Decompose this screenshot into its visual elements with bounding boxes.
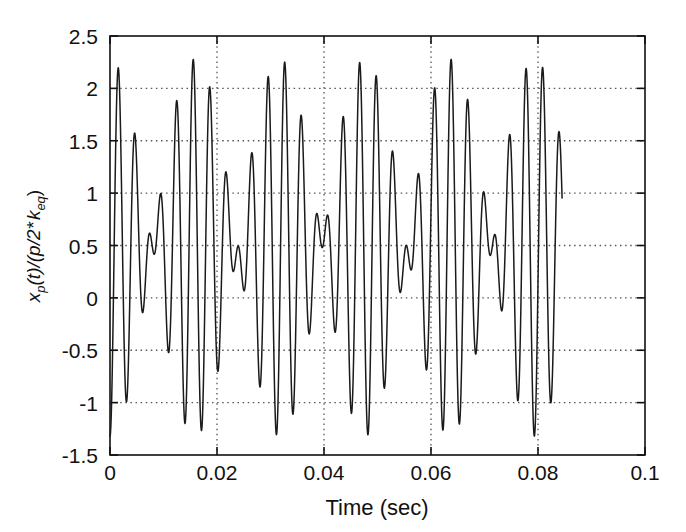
y-tick-label: -0.5 xyxy=(62,339,98,362)
y-tick-label: 0.5 xyxy=(69,235,98,258)
figure-background xyxy=(0,0,686,532)
y-tick-label: 1.5 xyxy=(69,130,98,153)
y-tick-label: 2.5 xyxy=(69,25,98,48)
x-tick-label: 0 xyxy=(104,461,116,484)
x-tick-label: 0.08 xyxy=(518,461,559,484)
y-axis-title-x-subscript: p xyxy=(33,285,48,293)
y-axis-title-k-subscript: eq xyxy=(33,195,48,210)
y-tick-label: 2 xyxy=(86,77,98,100)
y-axis-title-mid: (t)/(p/2* xyxy=(23,222,44,286)
x-tick-label: 0.06 xyxy=(411,461,452,484)
y-tick-label: -1.5 xyxy=(62,444,98,467)
y-axis-title-close: ) xyxy=(23,190,44,196)
x-tick-label: 0.1 xyxy=(630,461,659,484)
x-axis-title: Time (sec) xyxy=(325,495,428,520)
y-tick-label: 0 xyxy=(86,287,98,310)
plot-svg: 2.521.510.50-0.5-1-1.5 00.020.040.060.08… xyxy=(0,0,686,532)
y-tick-label: -1 xyxy=(79,392,98,415)
figure-container: 2.521.510.50-0.5-1-1.5 00.020.040.060.08… xyxy=(0,0,686,532)
y-tick-label: 1 xyxy=(86,182,98,205)
x-tick-label: 0.02 xyxy=(197,461,238,484)
x-tick-label: 0.04 xyxy=(304,461,345,484)
